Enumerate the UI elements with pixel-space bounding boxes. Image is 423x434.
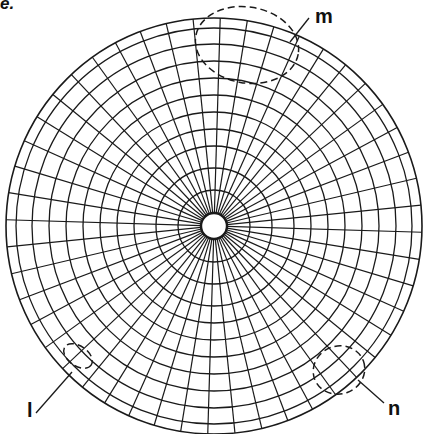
web-spoke bbox=[219, 36, 299, 214]
web-spoke bbox=[225, 104, 383, 218]
web-drawing bbox=[0, 0, 423, 434]
web-spoke bbox=[227, 205, 421, 225]
web-spoke bbox=[227, 228, 419, 259]
web-spoke bbox=[227, 226, 422, 232]
web-spoke bbox=[220, 237, 312, 409]
web-spoke bbox=[208, 239, 214, 434]
web-spoke bbox=[226, 230, 413, 286]
leader-line-l bbox=[36, 372, 72, 413]
web-spoke bbox=[45, 234, 203, 348]
web-spoke bbox=[214, 18, 220, 213]
central-hub bbox=[201, 213, 227, 239]
web-spoke bbox=[223, 235, 357, 377]
label-n: n bbox=[388, 398, 400, 418]
web-spoke bbox=[82, 236, 205, 387]
web-spoke bbox=[15, 166, 202, 222]
web-spoke bbox=[193, 19, 213, 213]
leader-line-n bbox=[358, 380, 384, 403]
web-spoke bbox=[222, 65, 345, 216]
web-spoke bbox=[6, 220, 201, 226]
web-spoke bbox=[225, 127, 397, 219]
web-spoke bbox=[226, 231, 404, 311]
web-spoke bbox=[9, 193, 201, 224]
web-spoke bbox=[7, 227, 201, 247]
label-m: m bbox=[315, 6, 333, 26]
web-spoke bbox=[218, 27, 274, 214]
label-l: l bbox=[27, 400, 33, 420]
web-spoke bbox=[129, 238, 209, 416]
web-spoke bbox=[216, 21, 247, 213]
web-spoke bbox=[31, 232, 203, 324]
web-spoke bbox=[92, 57, 206, 215]
web-spoke bbox=[154, 238, 210, 425]
web-spoke bbox=[224, 234, 375, 357]
web-spoke bbox=[24, 141, 202, 221]
web-spoke bbox=[71, 75, 205, 217]
web-spoke bbox=[181, 239, 212, 431]
web-spoke bbox=[215, 239, 235, 433]
web-spoke bbox=[63, 235, 205, 369]
web-spoke bbox=[115, 43, 207, 215]
web-spoke bbox=[223, 83, 365, 217]
orb-web-diagram: e. m l n bbox=[0, 0, 423, 434]
web-spoke bbox=[53, 94, 204, 217]
web-spoke bbox=[222, 237, 336, 395]
